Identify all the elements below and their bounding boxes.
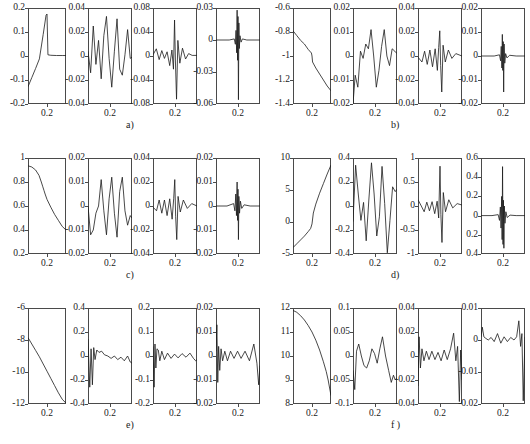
x-tick-mark <box>110 104 111 107</box>
x-tick-mark <box>47 254 48 257</box>
y-tick-label: 0.02 <box>68 27 85 37</box>
y-tick-mark <box>478 404 481 405</box>
y-tick-label: -5 <box>282 249 290 259</box>
y-tick-mark <box>85 404 88 405</box>
y-tick-label: -0.02 <box>193 249 213 259</box>
y-tick-label: -0.02 <box>395 75 415 85</box>
y-tick-mark <box>350 104 353 105</box>
x-tick-label: 0.2 <box>104 408 116 418</box>
y-tick-label: -10 <box>12 367 25 377</box>
x-tick-label: 0.2 <box>434 408 446 418</box>
y-tick-mark <box>290 104 293 105</box>
x-tick-mark <box>175 104 176 107</box>
y-tick-label: -0.01 <box>330 75 350 85</box>
group-caption-e: e) <box>126 420 134 430</box>
y-tick-label: 0.02 <box>196 153 213 163</box>
y-tick-label: 0.2 <box>13 249 25 259</box>
y-tick-label: -0.01 <box>65 225 85 235</box>
y-axis-ticks: 0.040.020-0.02-0.04 <box>378 8 418 104</box>
y-tick-label: 0.02 <box>398 27 415 37</box>
x-tick-label: 0.2 <box>232 258 244 268</box>
y-tick-label: -0.2 <box>10 99 25 109</box>
y-tick-label: 0.02 <box>133 177 150 187</box>
y-tick-label: 0.02 <box>461 3 478 13</box>
plot-panel-f4: 0.010-0.01-0.020.2 <box>481 308 525 404</box>
plot-panel-d4: 0.60.40.200.20.40.2 <box>481 158 525 254</box>
y-tick-label: 0.1 <box>338 303 350 313</box>
y-axis-ticks: 0.20.10-0.1-0.2 <box>0 8 28 104</box>
y-tick-label: -0.4 <box>70 399 85 409</box>
y-tick-mark <box>213 404 216 405</box>
y-tick-label: 0.2 <box>466 230 478 240</box>
y-axis-ticks: 0.040.020-0.02-0.04 <box>378 308 418 404</box>
y-axis-ticks: 0.40.20-0.2-0.4 <box>48 308 88 404</box>
x-tick-label: 0.2 <box>369 408 381 418</box>
x-tick-mark <box>47 104 48 107</box>
y-tick-label: -0.04 <box>130 75 150 85</box>
y-tick-label: 0.1 <box>13 27 25 37</box>
y-tick-mark <box>150 404 153 405</box>
y-tick-label: 0.6 <box>466 153 478 163</box>
group-caption-d: d) <box>391 270 399 280</box>
y-tick-label: 0.05 <box>333 327 350 337</box>
y-axis-ticks: -0.6-0.8-1-1.2-1.4 <box>253 8 293 104</box>
y-axis-ticks: 0.10.050-0.05-0.1 <box>313 308 353 404</box>
x-tick-label: 0.2 <box>369 108 381 118</box>
y-tick-label: -0.04 <box>395 99 415 109</box>
x-tick-mark <box>238 254 239 257</box>
y-tick-label: -1.4 <box>275 99 290 109</box>
y-tick-label: -0.8 <box>275 27 290 37</box>
x-tick-mark <box>503 104 504 107</box>
y-tick-label: 0.4 <box>338 153 350 163</box>
x-tick-mark <box>440 404 441 407</box>
y-tick-mark <box>415 254 418 255</box>
y-tick-label: -0.02 <box>458 99 478 109</box>
y-tick-label: 0.4 <box>466 249 478 259</box>
y-tick-label: -0.02 <box>330 99 350 109</box>
y-tick-label: 0.01 <box>196 177 213 187</box>
x-tick-label: 0.2 <box>169 258 181 268</box>
y-tick-mark <box>290 254 293 255</box>
y-tick-label: -0.1 <box>135 375 150 385</box>
x-tick-mark <box>375 254 376 257</box>
y-tick-label: 0.01 <box>196 327 213 337</box>
y-tick-mark <box>25 254 28 255</box>
y-tick-label: 0.4 <box>466 172 478 182</box>
y-axis-ticks: 12111098 <box>253 308 293 404</box>
y-tick-label: 0.02 <box>333 3 350 13</box>
group-caption-a: a) <box>126 120 134 130</box>
plot-panel-b4: 0.020.010-0.01-0.020.2 <box>481 8 525 104</box>
y-tick-label: -0.04 <box>130 249 150 259</box>
y-tick-mark <box>85 254 88 255</box>
y-axis-ticks: 0.40.20-0.2-0.4 <box>313 158 353 254</box>
y-tick-label: 0.04 <box>398 303 415 313</box>
y-axis-ticks: 0.040.020-0.02-0.04 <box>113 158 153 254</box>
group-caption-f: f ) <box>391 420 400 430</box>
y-tick-mark <box>150 104 153 105</box>
y-tick-mark <box>350 404 353 405</box>
x-tick-label: 0.2 <box>41 408 53 418</box>
y-tick-label: -0.2 <box>135 399 150 409</box>
y-tick-label: 0.01 <box>68 177 85 187</box>
y-tick-label: 0.2 <box>138 303 150 313</box>
x-tick-label: 0.2 <box>306 408 318 418</box>
x-tick-mark <box>503 404 504 407</box>
y-tick-label: 0.5 <box>403 177 415 187</box>
y-tick-label: 0.2 <box>466 192 478 202</box>
y-tick-label: -0.02 <box>65 75 85 85</box>
x-tick-label: 0.2 <box>169 108 181 118</box>
x-tick-label: 0.2 <box>41 258 53 268</box>
y-tick-mark <box>150 254 153 255</box>
y-tick-label: -0.2 <box>335 225 350 235</box>
x-tick-mark <box>503 254 504 257</box>
y-tick-label: 0.01 <box>333 27 350 37</box>
y-tick-label: -0.01 <box>193 225 213 235</box>
signal-trace <box>481 8 525 104</box>
y-tick-label: -0.01 <box>193 375 213 385</box>
group-caption-b: b) <box>391 120 399 130</box>
x-tick-mark <box>375 104 376 107</box>
y-tick-label: -0.04 <box>65 99 85 109</box>
x-tick-label: 0.2 <box>369 258 381 268</box>
x-tick-label: 0.2 <box>169 408 181 418</box>
y-tick-label: 0.04 <box>133 153 150 163</box>
